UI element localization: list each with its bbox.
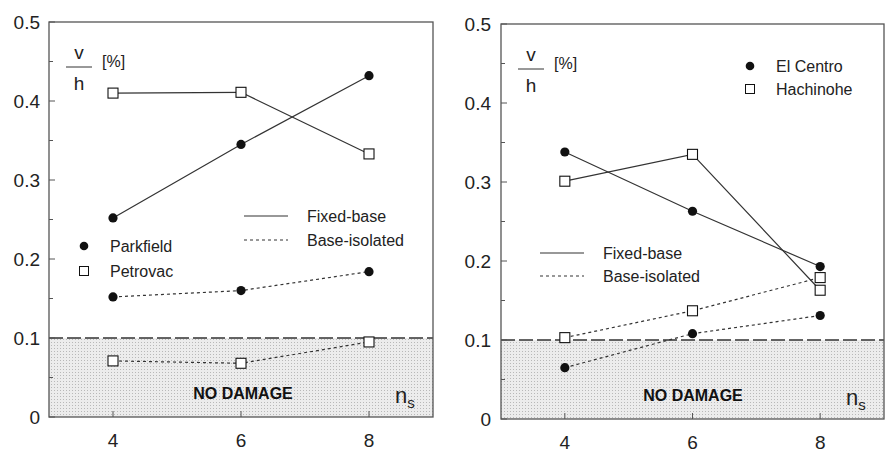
x-tick-label: 6 bbox=[687, 432, 698, 453]
circle-marker bbox=[560, 363, 569, 372]
y-tick-label: 0.5 bbox=[14, 12, 40, 33]
y-tick-label: 0.4 bbox=[14, 91, 41, 112]
y-axis-label-denominator: h bbox=[526, 75, 537, 96]
circle-marker bbox=[364, 71, 373, 80]
legend-circle-icon bbox=[746, 62, 755, 71]
y-tick-label: 0.3 bbox=[14, 170, 40, 191]
square-marker bbox=[364, 337, 374, 347]
left-panel: 00.10.20.30.40.5468vh[%]NO DAMAGEnsParkf… bbox=[14, 12, 433, 451]
legend-label: Hachinohe bbox=[776, 81, 853, 98]
legend-label: Base-isolated bbox=[307, 232, 404, 249]
x-tick-label: 6 bbox=[236, 430, 247, 451]
circle-marker bbox=[236, 286, 245, 295]
square-marker bbox=[815, 285, 825, 295]
circle-marker bbox=[816, 262, 825, 271]
no-damage-zone bbox=[49, 338, 433, 417]
legend-square-icon bbox=[80, 267, 89, 276]
circle-marker bbox=[560, 147, 569, 156]
legend-square-icon bbox=[746, 85, 755, 94]
no-damage-label: NO DAMAGE bbox=[193, 385, 293, 402]
circle-marker bbox=[688, 329, 697, 338]
legend-label: Petrovac bbox=[110, 263, 173, 280]
square-marker bbox=[560, 333, 570, 343]
y-tick-label: 0.3 bbox=[465, 172, 491, 193]
y-tick-label: 0.1 bbox=[14, 328, 40, 349]
y-axis-unit: [%] bbox=[102, 53, 125, 70]
no-damage-label: NO DAMAGE bbox=[643, 387, 743, 404]
circle-marker bbox=[108, 292, 117, 301]
y-tick-label: 0 bbox=[29, 407, 40, 428]
y-axis-label-denominator: h bbox=[74, 73, 85, 94]
right-panel: 00.10.20.30.40.5468vh[%]NO DAMAGEnsEl Ce… bbox=[465, 14, 884, 453]
y-tick-label: 0.4 bbox=[465, 93, 492, 114]
square-marker bbox=[688, 149, 698, 159]
x-tick-label: 8 bbox=[815, 432, 826, 453]
y-axis-label-numerator: v bbox=[526, 44, 536, 65]
y-tick-label: 0.5 bbox=[465, 14, 491, 35]
legend-label: El Centro bbox=[776, 58, 843, 75]
y-axis-unit: [%] bbox=[554, 55, 577, 72]
legend-label: Fixed-base bbox=[603, 245, 682, 262]
legend-label: Base-isolated bbox=[603, 268, 700, 285]
square-marker bbox=[108, 88, 118, 98]
square-marker bbox=[236, 358, 246, 368]
circle-marker bbox=[816, 311, 825, 320]
legend-circle-icon bbox=[80, 242, 89, 251]
circle-marker bbox=[688, 207, 697, 216]
y-tick-label: 0.2 bbox=[14, 249, 40, 270]
circle-marker bbox=[108, 213, 117, 222]
y-tick-label: 0.1 bbox=[465, 330, 491, 351]
y-tick-label: 0 bbox=[480, 409, 491, 430]
x-tick-label: 4 bbox=[108, 430, 119, 451]
no-damage-zone bbox=[501, 340, 884, 419]
square-marker bbox=[688, 306, 698, 316]
legend-label: Fixed-base bbox=[307, 208, 386, 225]
square-marker bbox=[236, 87, 246, 97]
circle-marker bbox=[236, 140, 245, 149]
circle-marker bbox=[364, 267, 373, 276]
x-tick-label: 4 bbox=[560, 432, 571, 453]
chart-canvas: 00.10.20.30.40.5468vh[%]NO DAMAGEnsParkf… bbox=[0, 0, 895, 461]
square-marker bbox=[108, 356, 118, 366]
x-tick-label: 8 bbox=[364, 430, 375, 451]
y-axis-label-numerator: v bbox=[74, 42, 84, 63]
square-marker bbox=[364, 149, 374, 159]
legend-label: Parkfield bbox=[110, 238, 172, 255]
square-marker bbox=[560, 176, 570, 186]
square-marker bbox=[815, 273, 825, 283]
y-tick-label: 0.2 bbox=[465, 251, 491, 272]
